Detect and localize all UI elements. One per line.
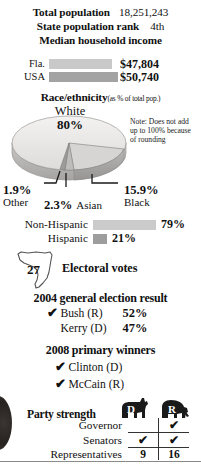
hispanic-bar-his <box>93 234 107 244</box>
general-election-2004-header: 2004 general election result <box>0 290 201 306</box>
electoral-votes-number: 27 <box>27 262 40 278</box>
primary-winners-2008: 2008 primary winners ✔ Clinton (D) ✔ McC… <box>0 342 201 393</box>
income-row-usa: USA $50,740 <box>0 71 201 83</box>
party-row-r-representatives: 16 <box>159 448 190 461</box>
elephant-letter: R <box>168 403 177 415</box>
donkey-letter: D <box>127 403 135 415</box>
callout-asian-pct: 2.3% <box>44 198 72 212</box>
candidate-row-kerry: Kerry (D) 47% <box>0 321 201 336</box>
income-label-fla: Fla. <box>0 58 49 70</box>
primary-row-mccain: ✔ McCain (R) <box>0 376 201 393</box>
hispanic-value-non: 79% <box>161 217 185 232</box>
party-row-label-governor: Governor <box>12 418 128 433</box>
party-row-label-senators: Senators <box>12 433 128 448</box>
party-row-r-senators: ✔ <box>159 433 190 448</box>
candidate-row-bush: ✔ Bush (R) 52% <box>0 306 201 321</box>
candidate-pct-kerry: 47% <box>123 321 155 336</box>
hispanic-origin-chart: Non-Hispanic 79% Hispanic 21% <box>0 218 201 246</box>
population-stats: Total population 18,251,243 State popula… <box>0 5 201 48</box>
donkey-icon <box>122 398 148 418</box>
candidate-name-bush: Bush (R) <box>61 306 123 321</box>
callout-black-name: Black <box>124 197 159 209</box>
income-row-fla: Fla. $47,804 <box>0 58 201 70</box>
callout-other-name: Other <box>3 197 31 209</box>
median-income-header: Median household income <box>0 33 201 48</box>
check-icon-bush: ✔ <box>47 306 61 321</box>
income-bar-usa <box>49 72 118 82</box>
callout-other: 1.9% Other <box>3 184 31 209</box>
party-row-d-representatives: 9 <box>128 448 159 461</box>
primary-name-mccain: McCain (R) <box>69 377 147 393</box>
median-income-chart: Fla. $47,804 USA $50,740 <box>0 58 201 84</box>
total-population-row: Total population 18,251,243 <box>0 5 201 19</box>
party-row-r-governor: ✔ <box>159 418 190 433</box>
table-row-representatives: Representatives 9 16 <box>12 448 189 461</box>
callout-black: 15.9% Black <box>124 184 159 209</box>
party-strength-section: Party strength D R Governor ✔ Senators <box>0 396 201 456</box>
state-profile-infographic: Total population 18,251,243 State popula… <box>0 0 201 468</box>
hispanic-label-his: Hispanic <box>0 232 93 245</box>
hispanic-bar-non <box>93 220 156 230</box>
table-row-governor: Governor ✔ <box>12 418 189 433</box>
party-row-d-governor <box>128 418 159 433</box>
income-label-usa: USA <box>0 71 49 83</box>
callout-asian-name: Asian <box>76 199 102 211</box>
income-bar-fla <box>49 59 112 69</box>
callout-asian: 2.3% Asian <box>44 196 102 213</box>
pie-main-label: White 80% <box>30 105 110 132</box>
party-strength-table: Governor ✔ Senators ✔ ✔ Representatives … <box>12 418 189 460</box>
hispanic-value-his: 21% <box>112 231 136 246</box>
rounding-note: Note: Does not add up to 100% because of… <box>130 117 198 145</box>
hispanic-row-his: Hispanic 21% <box>0 232 201 245</box>
population-rank-label: State population rank <box>37 19 139 33</box>
total-population-value: 18,251,243 <box>119 5 168 19</box>
check-icon-clinton: ✔ <box>55 359 69 375</box>
general-election-2004: 2004 general election result ✔ Bush (R) … <box>0 290 201 336</box>
population-rank-value: 4th <box>150 19 164 33</box>
electoral-votes-section: 27 Electoral votes <box>0 248 201 290</box>
table-row-senators: Senators ✔ ✔ <box>12 433 189 448</box>
party-row-label-representatives: Representatives <box>12 448 128 461</box>
bottom-divider <box>0 461 201 462</box>
candidate-name-kerry: Kerry (D) <box>61 321 123 336</box>
check-icon-mccain: ✔ <box>55 376 69 392</box>
pie-white-value: 80% <box>30 118 110 132</box>
hispanic-label-non: Non-Hispanic <box>0 218 93 231</box>
primary-row-clinton: ✔ Clinton (D) <box>0 359 201 376</box>
primary-name-clinton: Clinton (D) <box>69 360 147 376</box>
party-symbols: D R <box>118 394 194 420</box>
candidate-pct-bush: 52% <box>123 306 155 321</box>
primary-winners-2008-header: 2008 primary winners <box>0 342 201 359</box>
total-population-label: Total population <box>33 5 110 19</box>
hispanic-row-non: Non-Hispanic 79% <box>0 218 201 231</box>
race-pie-chart: White 80% <box>8 101 130 187</box>
income-value-usa: $50,740 <box>120 70 159 85</box>
population-rank-row: State population rank 4th <box>0 19 201 33</box>
electoral-votes-label: Electoral votes <box>62 261 137 276</box>
party-row-d-senators: ✔ <box>128 433 159 448</box>
